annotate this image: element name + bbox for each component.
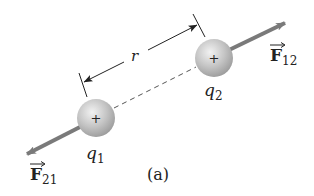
caption-label: (a) bbox=[147, 165, 169, 184]
plus-sign-icon: + bbox=[209, 51, 220, 66]
coulomb-force-diagram: r + + q1 q2 F21 bbox=[0, 0, 314, 196]
dimension-line-right bbox=[148, 25, 197, 50]
separation-dashed-line bbox=[114, 67, 196, 108]
dimension-tick-q1 bbox=[79, 73, 87, 97]
label-q1: q1 bbox=[86, 143, 105, 166]
dimension-tick-q2 bbox=[193, 14, 205, 37]
distance-label-r: r bbox=[131, 47, 139, 65]
label-f12: F12 bbox=[270, 43, 297, 69]
force-arrow-f21 bbox=[27, 126, 82, 154]
svg-text:F21: F21 bbox=[30, 164, 57, 187]
plus-sign-icon: + bbox=[91, 111, 102, 126]
diagram-svg: r + + q1 q2 F21 bbox=[0, 0, 314, 196]
charge-q2: + bbox=[195, 39, 233, 77]
svg-text:F12: F12 bbox=[270, 45, 297, 68]
dimension-line-left bbox=[84, 62, 124, 82]
charge-q1: + bbox=[77, 99, 115, 137]
label-f21: F21 bbox=[30, 162, 57, 188]
label-q2: q2 bbox=[204, 80, 223, 103]
